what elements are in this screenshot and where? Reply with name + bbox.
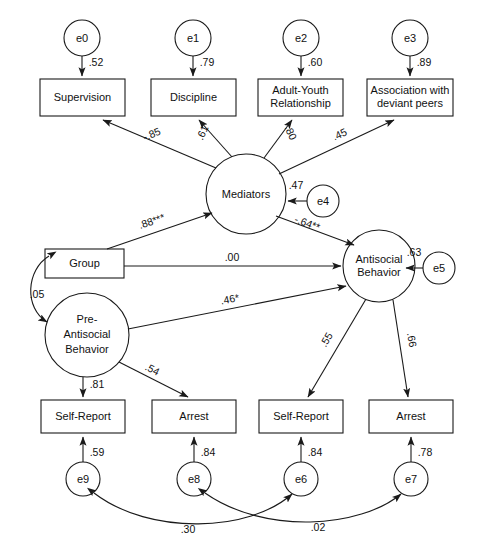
- latent-label-pre-antisocial-line1: Pre-: [77, 313, 98, 325]
- coef-e1-discipline: .79: [200, 56, 215, 68]
- path-antisocial-to-self-report-post: [308, 299, 366, 397]
- error-label-e5: e5: [433, 262, 445, 274]
- indicator-label-self-report-post: Self-Report: [273, 410, 329, 422]
- error-label-e9: e9: [77, 473, 89, 485]
- indicator-box-arrest-post[interactable]: Arrest: [369, 400, 453, 433]
- error-node-e0[interactable]: e0: [64, 20, 100, 56]
- error-node-e9[interactable]: e9: [66, 462, 100, 496]
- indicator-box-discipline[interactable]: Discipline: [151, 79, 236, 116]
- error-label-e8: e8: [188, 473, 200, 485]
- indicator-box-arrest-pre[interactable]: Arrest: [152, 400, 236, 433]
- coef-e8-e7-covariance: .02: [311, 521, 326, 533]
- indicator-box-adult-youth-relationship[interactable]: Adult-Youth Relationship: [258, 79, 343, 116]
- indicator-box-self-report-post[interactable]: Self-Report: [259, 400, 343, 433]
- indicator-box-supervision[interactable]: Supervision: [40, 79, 125, 116]
- error-label-e4: e4: [317, 195, 329, 207]
- indicator-label-deviant-peers-line2: deviant peers: [377, 97, 444, 109]
- error-label-e2: e2: [295, 32, 307, 44]
- error-node-e2[interactable]: e2: [283, 20, 319, 56]
- observed-label-group: Group: [69, 257, 100, 269]
- coef-mediators-discipline: .61: [193, 123, 210, 141]
- coef-preantisocial-arrest: .54: [143, 360, 162, 377]
- coef-e9-e6-covariance: .30: [181, 523, 196, 535]
- latent-label-antisocial-line1: Antisocial: [355, 253, 402, 265]
- coef-mediators-adult-youth: .80: [283, 123, 300, 141]
- coef-group-mediators: .88***: [137, 211, 166, 231]
- indicator-label-adult-youth-line1: Adult-Youth: [272, 84, 328, 96]
- coef-e5-antisocial: .63: [407, 246, 422, 258]
- error-node-e7[interactable]: e7: [394, 462, 428, 496]
- latent-label-pre-antisocial-line3: Behavior: [65, 343, 109, 355]
- coef-mediators-supervision: -.85: [141, 125, 162, 143]
- latent-node-antisocial-behavior[interactable]: Antisocial Behavior: [343, 230, 415, 302]
- coef-e6-self-report: .84: [308, 446, 323, 458]
- coef-preantisocial-self-report: .81: [90, 378, 105, 390]
- indicator-label-supervision: Supervision: [54, 91, 111, 103]
- error-label-e7: e7: [405, 473, 417, 485]
- coef-e9-self-report: .59: [90, 446, 105, 458]
- latent-label-pre-antisocial-line2: Antisocial: [63, 328, 110, 340]
- latent-node-mediators[interactable]: Mediators: [206, 154, 286, 234]
- error-node-e3[interactable]: e3: [392, 20, 428, 56]
- coef-group-preantisocial: .05: [30, 288, 45, 300]
- indicator-box-self-report-pre[interactable]: Self-Report: [41, 400, 125, 433]
- error-label-e1: e1: [187, 32, 199, 44]
- latent-label-mediators: Mediators: [222, 188, 271, 200]
- coef-mediators-deviant-peers: .45: [330, 125, 348, 142]
- coef-preantisocial-antisocial: .46*: [219, 291, 240, 306]
- coef-e2-adult-youth: .60: [308, 56, 323, 68]
- path-e9-e6-covariance: [94, 493, 292, 524]
- coef-e8-arrest: .84: [201, 446, 216, 458]
- indicator-label-discipline: Discipline: [170, 91, 217, 103]
- error-node-e4[interactable]: e4: [307, 185, 339, 217]
- indicator-label-deviant-peers-line1: Association with: [371, 84, 450, 96]
- indicator-box-association-deviant-peers[interactable]: Association with deviant peers: [367, 79, 453, 116]
- observed-box-group[interactable]: Group: [45, 249, 124, 278]
- coef-antisocial-arrest: .66: [405, 332, 419, 349]
- latent-node-pre-antisocial-behavior[interactable]: Pre- Antisocial Behavior: [45, 293, 129, 377]
- error-node-e8[interactable]: e8: [177, 462, 211, 496]
- sem-path-diagram: e0 e1 e2 e3 .52 .79 .60 .89 Supervision: [0, 0, 479, 559]
- error-node-e1[interactable]: e1: [175, 20, 211, 56]
- path-antisocial-to-arrest-post: [393, 300, 408, 397]
- coef-e7-arrest: .78: [418, 446, 433, 458]
- coef-e3-deviant-peers: .89: [417, 56, 432, 68]
- error-label-e3: e3: [404, 32, 416, 44]
- diagram-canvas: e0 e1 e2 e3 .52 .79 .60 .89 Supervision: [0, 0, 479, 559]
- coef-e0-supervision: .52: [89, 56, 104, 68]
- latent-label-antisocial-line2: Behavior: [357, 266, 401, 278]
- coef-group-antisocial: .00: [225, 251, 240, 263]
- coef-e4-mediators: .47: [289, 179, 304, 191]
- path-e8-e7-covariance: [205, 493, 401, 522]
- indicator-label-adult-youth-line2: Relationship: [270, 97, 331, 109]
- error-node-e6[interactable]: e6: [284, 462, 318, 496]
- error-label-e6: e6: [295, 473, 307, 485]
- coef-antisocial-self-report: .55: [317, 330, 335, 349]
- indicator-label-self-report-pre: Self-Report: [55, 410, 111, 422]
- indicator-label-arrest-pre: Arrest: [179, 410, 208, 422]
- indicator-label-arrest-post: Arrest: [396, 410, 425, 422]
- error-label-e0: e0: [76, 32, 88, 44]
- error-node-e5[interactable]: e5: [423, 252, 455, 284]
